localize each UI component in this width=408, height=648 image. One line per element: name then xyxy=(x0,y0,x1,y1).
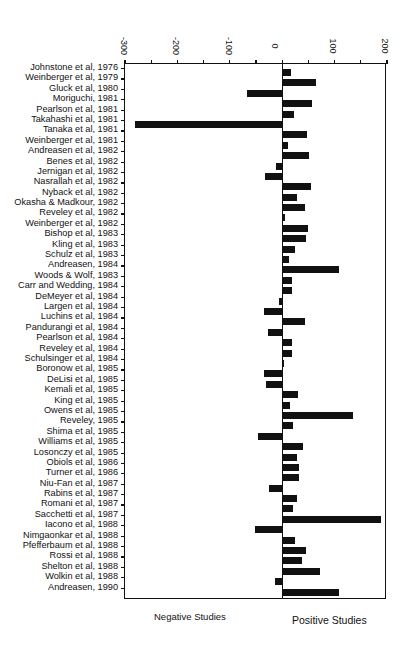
study-label: Carr and Wedding, 1984 xyxy=(18,280,118,290)
y-tick xyxy=(121,504,125,505)
study-label: Shelton et al, 1988 xyxy=(41,561,118,571)
bar xyxy=(275,578,282,585)
x-tick xyxy=(203,60,204,64)
bar xyxy=(265,173,282,180)
study-label: Nasrallah et al, 1982 xyxy=(34,176,118,186)
y-tick xyxy=(121,401,125,402)
y-tick xyxy=(121,369,125,370)
y-tick xyxy=(121,463,125,464)
x-tick xyxy=(386,60,387,64)
plot-area xyxy=(124,63,386,599)
x-tick xyxy=(151,60,152,64)
study-label: Andreasen, 1984 xyxy=(48,259,118,269)
study-label: Pearlson et al, 1981 xyxy=(36,104,118,114)
bar xyxy=(269,485,282,492)
y-tick xyxy=(121,110,125,111)
x-tick xyxy=(282,60,283,64)
y-tick xyxy=(121,265,125,266)
study-label: Pandurangi et al, 1984 xyxy=(26,322,118,332)
bar xyxy=(282,194,297,201)
y-tick xyxy=(121,68,125,69)
bar xyxy=(282,474,299,481)
study-label: Williams et al, 1985 xyxy=(38,436,118,446)
study-label: Moriguchi, 1981 xyxy=(53,93,118,103)
x-tick xyxy=(334,60,335,64)
y-tick xyxy=(121,515,125,516)
y-tick xyxy=(121,577,125,578)
y-tick xyxy=(121,245,125,246)
y-tick xyxy=(121,588,125,589)
study-label: Owens et al, 1985 xyxy=(44,405,118,415)
y-tick xyxy=(121,99,125,100)
study-label: Jernigan et al, 1982 xyxy=(37,166,118,176)
x-tick-label: 200 xyxy=(380,38,390,53)
study-label: Schulz et al, 1983 xyxy=(45,249,118,259)
bar xyxy=(282,277,291,284)
bar xyxy=(264,308,282,315)
y-tick xyxy=(121,255,125,256)
y-tick xyxy=(121,224,125,225)
bar xyxy=(282,568,320,575)
bar xyxy=(264,370,282,377)
bar xyxy=(282,69,291,76)
bar-chart: -300-200-1000100200 Johnstone et al, 197… xyxy=(0,0,408,648)
bar xyxy=(282,318,305,325)
study-label: Bishop et al, 1983 xyxy=(44,228,118,238)
study-label: Woods & Wolf, 1983 xyxy=(35,270,118,280)
y-tick xyxy=(121,234,125,235)
x-tick xyxy=(229,60,230,64)
y-tick xyxy=(121,338,125,339)
bar xyxy=(279,298,283,305)
x-tick xyxy=(124,60,125,64)
y-tick xyxy=(121,567,125,568)
bar xyxy=(282,111,294,118)
study-label: Turner et al, 1986 xyxy=(46,467,118,477)
y-tick xyxy=(121,442,125,443)
study-label: Romani et al, 1987 xyxy=(41,498,118,508)
study-label: Niu-Fan et al, 1987 xyxy=(40,478,118,488)
y-tick xyxy=(121,380,125,381)
bar xyxy=(247,90,283,97)
bar xyxy=(282,547,306,554)
y-tick xyxy=(121,484,125,485)
y-tick xyxy=(121,203,125,204)
study-label: Obiols et al, 1986 xyxy=(46,457,118,467)
bar xyxy=(276,163,282,170)
study-label: Benes et al, 1982 xyxy=(46,156,118,166)
bar xyxy=(282,256,289,263)
y-tick xyxy=(121,193,125,194)
study-label: Boronow et al, 1985 xyxy=(36,363,118,373)
x-tick-label: -100 xyxy=(224,37,234,55)
study-label: Reveley, 1985 xyxy=(60,415,118,425)
study-label: King et al, 1985 xyxy=(54,395,118,405)
bar xyxy=(282,246,295,253)
bar xyxy=(282,505,292,512)
y-tick xyxy=(121,536,125,537)
study-label: Luchins et al, 1984 xyxy=(41,311,118,321)
study-label: Rossi et al, 1988 xyxy=(50,550,118,560)
study-label: DeLisi et al, 1985 xyxy=(47,374,118,384)
study-label: Rabins et al, 1987 xyxy=(44,488,118,498)
y-tick xyxy=(121,89,125,90)
y-tick xyxy=(121,297,125,298)
bar xyxy=(282,142,288,149)
y-tick xyxy=(121,494,125,495)
bar xyxy=(258,433,283,440)
study-label: Weinberger et al, 1979 xyxy=(25,72,118,82)
y-tick xyxy=(121,328,125,329)
bar xyxy=(282,454,297,461)
bar xyxy=(282,183,311,190)
bar xyxy=(282,266,339,273)
bar xyxy=(282,152,309,159)
x-tick-label: -300 xyxy=(119,37,129,55)
study-label: Largen et al, 1984 xyxy=(44,301,118,311)
y-tick xyxy=(121,182,125,183)
y-tick xyxy=(121,546,125,547)
study-label: Johnstone et al, 1976 xyxy=(30,62,118,72)
y-tick xyxy=(121,432,125,433)
y-tick xyxy=(121,556,125,557)
positive-studies-label: Positive Studies xyxy=(292,614,367,626)
bar xyxy=(282,464,299,471)
bar xyxy=(282,79,316,86)
study-label: Pearlson et al, 1984 xyxy=(36,332,118,342)
